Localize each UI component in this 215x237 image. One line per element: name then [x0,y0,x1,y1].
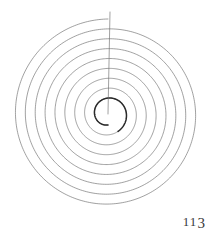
spiral-inner-dark-turn [94,98,126,131]
page-number-digit-3: 3 [197,215,206,231]
spiral-curve [15,19,195,204]
scanned-book-page: 113 [0,0,215,237]
page-number-digit-1: 1 [183,214,190,229]
page-number: 113 [183,214,206,229]
spiral-figure [0,0,215,237]
spiral-group [15,12,195,204]
